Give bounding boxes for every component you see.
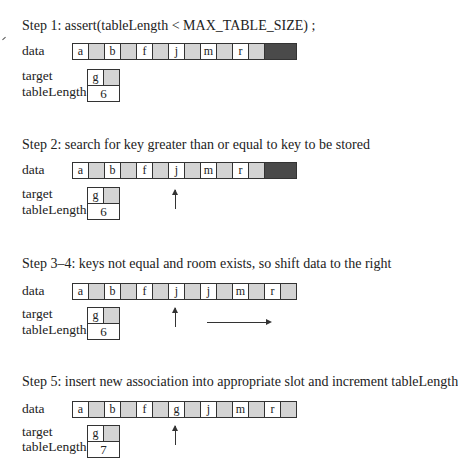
value-cell [152,43,169,60]
key-cell: j [168,283,185,300]
value-cell [248,43,265,60]
key-cell: m [200,162,217,179]
data-label: data [22,401,45,417]
key-cell: a [72,162,89,179]
key-cell: f [136,401,153,418]
step-title: Step 3–4: keys not equal and room exists… [22,256,391,272]
value-cell [280,401,297,418]
key-cell: f [136,283,153,300]
value-cell [88,162,105,179]
table-length-value: 6 [87,85,120,102]
target-box: g 6 [87,187,120,220]
value-cell [120,283,137,300]
data-array: abfjmr [72,43,297,60]
key-cell: b [104,43,121,60]
target-key: g [87,187,104,204]
key-cell: f [136,43,153,60]
table-length-label: tableLength [22,202,86,218]
value-cell [248,283,265,300]
data-label: data [22,162,45,178]
key-cell: b [104,162,121,179]
value-cell [248,401,265,418]
key-cell: r [264,401,281,418]
key-cell: m [200,43,217,60]
key-cell: a [72,401,89,418]
value-cell [280,283,297,300]
table-length-label: tableLength [22,84,86,100]
value-cell [120,162,137,179]
key-cell: j [200,401,217,418]
value-cell [88,283,105,300]
target-key: g [87,425,104,442]
data-label: data [22,43,45,59]
value-cell [88,43,105,60]
value-cell [184,283,201,300]
target-box: g 7 [87,425,120,458]
table-length-value: 7 [87,441,120,458]
table-length-label: tableLength [22,439,86,455]
target-key: g [87,307,104,324]
search-pointer-arrow-icon [175,190,176,209]
step-title: Step 5: insert new association into appr… [22,374,458,390]
key-cell: r [232,162,249,179]
table-length-value: 6 [87,323,120,340]
target-label: target [22,306,53,322]
value-cell [120,401,137,418]
value-cell [216,43,233,60]
target-value [103,69,120,86]
target-label: target [22,186,53,202]
step-title: Step 2: search for key greater than or e… [22,137,370,153]
value-cell [88,401,105,418]
value-cell [248,162,265,179]
key-cell: j [200,283,217,300]
value-cell [120,43,137,60]
key-cell: b [104,401,121,418]
target-label: target [22,424,53,440]
key-cell: r [232,43,249,60]
value-cell [152,162,169,179]
data-array: abfgjmr [72,401,297,418]
key-cell: j [168,43,185,60]
key-cell: r [264,283,281,300]
shift-right-arrow-icon [207,322,270,323]
target-value [103,425,120,442]
value-cell [216,162,233,179]
data-label: data [22,283,45,299]
key-cell: a [72,283,89,300]
value-cell [184,43,201,60]
value-cell [184,162,201,179]
table-length-label: tableLength [22,322,86,338]
target-box: g 6 [87,69,120,102]
key-cell: f [136,162,153,179]
value-cell [216,401,233,418]
key-cell: a [72,43,89,60]
value-cell [152,401,169,418]
unused-slot [264,162,297,179]
value-cell [184,401,201,418]
key-cell: m [232,401,249,418]
target-box: g 6 [87,307,120,340]
insert-pointer-arrow-icon [175,308,176,327]
step-title: Step 1: assert(tableLength < MAX_TABLE_S… [22,18,315,34]
target-value [103,187,120,204]
stray-mark [2,37,6,40]
unused-slot [264,43,297,60]
target-key: g [87,69,104,86]
value-cell [152,283,169,300]
key-cell: m [232,283,249,300]
value-cell [216,283,233,300]
insert-slot-arrow-icon [175,426,176,445]
target-label: target [22,68,53,84]
key-cell: j [168,162,185,179]
key-cell: g [168,401,185,418]
table-length-value: 6 [87,203,120,220]
data-array: abfjmr [72,162,297,179]
key-cell: b [104,283,121,300]
target-value [103,307,120,324]
data-array: abfjjmr [72,283,297,300]
